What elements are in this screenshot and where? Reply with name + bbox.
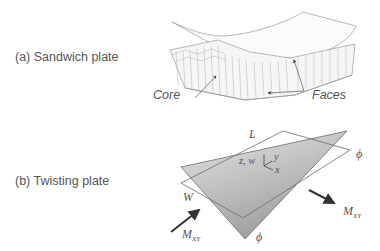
- width-label: W: [183, 190, 193, 205]
- moment-arrow-right: [309, 190, 334, 203]
- core-label: Core: [153, 88, 180, 102]
- angle-right-label: ϕ: [356, 147, 362, 162]
- twisted-plate-shaded: [181, 131, 347, 239]
- sandwich-plate-drawing: [170, 12, 356, 100]
- faces-label: Faces: [312, 88, 346, 102]
- figure-canvas: [0, 0, 380, 251]
- axis-zw-label: z, w: [239, 155, 255, 166]
- length-label: L: [249, 127, 256, 142]
- axis-y-label: y: [274, 151, 279, 162]
- moment-left-label: MXY: [182, 227, 200, 243]
- angle-bottom-label: ϕ: [256, 230, 262, 245]
- panel-b-caption: (b) Twisting plate: [15, 174, 109, 188]
- axis-x-label: x: [275, 164, 280, 175]
- panel-a-caption: (a) Sandwich plate: [15, 50, 119, 64]
- moment-right-label: MXY: [343, 204, 361, 220]
